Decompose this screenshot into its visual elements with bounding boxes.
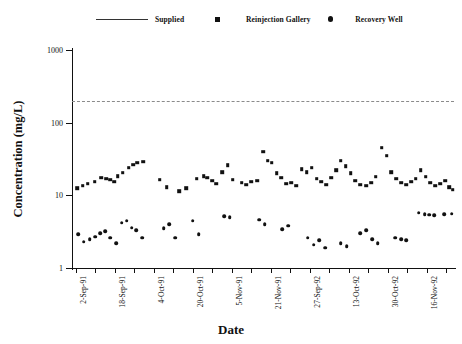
data-point-reinjection-gallery [289,181,293,185]
data-point-recovery-well [442,212,446,216]
data-point-recovery-well [174,236,178,240]
data-point-recovery-well [114,241,118,245]
x-axis-tick [427,268,428,273]
data-point-reinjection-gallery [433,184,437,188]
data-point-recovery-well [428,213,432,217]
data-point-reinjection-gallery [419,169,423,173]
data-point-reinjection-gallery [404,183,408,187]
y-axis-tick-label: 1 [59,264,63,273]
x-axis-tick-label: 30-Oct-92 [391,276,400,307]
x-axis-tick-label: 2-Sep-91 [79,276,88,304]
data-point-reinjection-gallery [374,175,378,179]
data-point-reinjection-gallery [112,180,116,184]
data-point-recovery-well [286,224,290,228]
data-point-recovery-well [433,214,437,218]
data-point-reinjection-gallery [395,177,399,181]
data-point-reinjection-gallery [429,181,433,185]
y-axis-tick [66,268,72,269]
data-point-recovery-well [88,237,92,241]
data-point-recovery-well [281,228,285,232]
data-point-reinjection-gallery [409,180,413,184]
data-point-reinjection-gallery [349,172,353,176]
y-axis-tick [66,123,72,124]
data-point-reinjection-gallery [245,183,249,187]
data-point-reinjection-gallery [158,178,162,182]
chart-figure: Supplied Reinjection Gallery Recovery We… [0,0,462,344]
x-axis-tick [76,268,77,273]
data-point-reinjection-gallery [93,180,97,184]
data-point-recovery-well [103,229,107,233]
data-point-reinjection-gallery [255,179,259,183]
data-point-recovery-well [263,222,267,226]
x-axis-tick [115,268,116,273]
data-point-reinjection-gallery [300,167,304,171]
data-point-recovery-well [162,227,166,231]
data-point-recovery-well [125,219,129,223]
x-axis-tick [251,268,252,273]
data-point-recovery-well [82,240,86,244]
data-point-recovery-well [168,222,172,226]
data-point-recovery-well [130,226,134,230]
x-axis-tick [368,268,369,273]
x-axis-tick [154,268,155,273]
y-axis-tick-label: 1000 [47,46,63,55]
data-point-reinjection-gallery [275,172,279,176]
x-axis-tick [349,268,350,273]
data-point-recovery-well [417,211,421,215]
x-axis-tick-label: 16-Nov-92 [430,276,439,309]
data-point-reinjection-gallery [359,183,363,187]
data-point-recovery-well [140,236,144,240]
data-point-reinjection-gallery [270,161,274,165]
data-point-reinjection-gallery [399,181,403,185]
data-point-reinjection-gallery [344,165,348,169]
circle-marker-icon [328,16,333,21]
data-point-recovery-well [376,241,380,245]
data-point-reinjection-gallery [195,177,199,181]
data-point-recovery-well [394,236,398,240]
data-point-recovery-well [450,212,454,216]
data-point-reinjection-gallery [240,181,244,185]
x-axis-tick [271,268,272,273]
x-axis-tick-label: 4-Oct-91 [157,276,166,303]
x-axis-tick-label: 20-Oct-91 [196,276,205,307]
data-point-reinjection-gallery [220,170,224,174]
data-point-recovery-well [370,237,374,241]
data-point-reinjection-gallery [369,181,373,185]
data-point-reinjection-gallery [165,185,169,189]
x-axis-tick-label: 21-Nov-91 [274,276,283,309]
y-axis-tick [66,195,72,196]
data-point-reinjection-gallery [334,169,338,173]
data-point-reinjection-gallery [226,163,230,167]
data-point-recovery-well [359,232,363,236]
data-point-reinjection-gallery [443,179,447,183]
data-point-reinjection-gallery [136,161,140,165]
data-point-recovery-well [339,241,343,245]
data-point-reinjection-gallery [354,179,358,183]
data-point-reinjection-gallery [285,182,289,186]
data-point-reinjection-gallery [451,188,455,192]
x-axis-tick [134,268,135,273]
data-point-reinjection-gallery [249,180,253,184]
x-axis-tick-label: 13-Oct-92 [352,276,361,307]
x-axis-tick [388,268,389,273]
data-point-reinjection-gallery [127,166,131,170]
x-axis-tick [310,268,311,273]
legend-item-supplied: Supplied [96,12,184,26]
square-marker-icon [215,17,220,22]
legend-label-reinjection-gallery: Reinjection Gallery [246,15,311,24]
y-axis-tick-label: 100 [51,118,63,127]
data-point-recovery-well [364,229,368,233]
data-point-reinjection-gallery [280,176,284,180]
x-axis-tick-label: 18-Sep-91 [118,276,127,308]
chart-legend: Supplied Reinjection Gallery Recovery We… [0,0,462,32]
x-axis-tick [193,268,194,273]
data-point-recovery-well [399,237,403,241]
data-point-reinjection-gallery [214,182,218,186]
data-point-recovery-well [318,239,322,243]
data-point-reinjection-gallery [339,159,343,163]
data-point-reinjection-gallery [329,176,333,180]
data-point-recovery-well [108,236,112,240]
x-axis-tick [212,268,213,273]
x-axis-tick [329,268,330,273]
data-point-recovery-well [197,233,201,237]
